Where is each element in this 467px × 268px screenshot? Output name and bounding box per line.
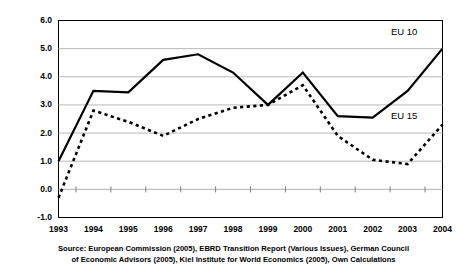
source-line-1: Source: European Commission (2005), EBRD… <box>0 243 467 254</box>
series-label-eu-10: EU 10 <box>391 27 417 37</box>
chart-container: 6.05.04.03.02.01.00.0-1.0 19931994199519… <box>0 0 467 268</box>
y-axis-tick-label: 3.0 <box>24 100 52 109</box>
y-axis-tick-label: 5.0 <box>24 44 52 53</box>
source-line-2: of Economic Advisors (2005), Kiel Instit… <box>0 254 467 265</box>
y-axis-tick-label: 4.0 <box>24 72 52 81</box>
y-axis-tick-label: -1.0 <box>24 213 52 222</box>
source-note: Source: European Commission (2005), EBRD… <box>0 243 467 265</box>
series-label-eu-15: EU 15 <box>391 111 417 121</box>
y-axis-tick-label: 0.0 <box>24 185 52 194</box>
y-axis-tick-label: 2.0 <box>24 129 52 138</box>
x-axis-tick-label: 2004 <box>423 225 463 234</box>
y-axis-tick-label: 1.0 <box>24 157 52 166</box>
y-axis-tick-label: 6.0 <box>24 16 52 25</box>
